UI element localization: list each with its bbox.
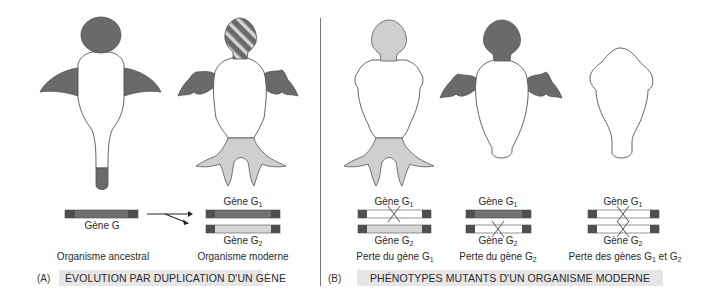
mutant-3-gene-g1-bar-lost: [588, 206, 659, 222]
panel-a-tag: (A): [37, 273, 50, 284]
mutant-1-organism: [344, 20, 434, 186]
mutant-2-label: Perte des gènes GPerte du gène G2: [453, 251, 543, 263]
gene-g-label: Gène G: [72, 220, 132, 231]
mutant-1-gene-g2-label: Gène G2: [362, 235, 426, 247]
mutant-1-gene-g2-bar: [358, 225, 431, 233]
ancestral-tail: [96, 168, 108, 190]
mutant-3-body: [590, 48, 653, 158]
mutant-2-head: [483, 20, 520, 61]
modern-body: [213, 58, 266, 138]
ancestral-organism: [40, 17, 161, 190]
modern-left-limb: [178, 72, 216, 97]
mutant-2-gene-g1-bar: [466, 210, 531, 218]
gene-g2-bar-modern: [206, 225, 280, 233]
panel-b-tag: (B): [328, 273, 341, 284]
mutant-3-gene-g1-label: Gène G1: [591, 196, 655, 208]
modern-gene-g1-label: Gène G1: [211, 196, 275, 208]
mutant-2-gene-g2-label: Gène G2: [466, 235, 530, 247]
gene-g1-bar-modern: [206, 210, 280, 218]
modern-right-limb: [262, 70, 298, 96]
mutant-3-label: Perte des gènes G1 et G2: [568, 251, 682, 263]
mutant-1-gene-g1-label: Gène G1: [362, 196, 426, 208]
ancestral-head: [81, 17, 121, 53]
ancestral-left-fin: [40, 68, 78, 96]
modern-head-striped: [225, 18, 257, 59]
modern-organism-label: Organisme moderne: [190, 251, 296, 262]
mutant-3-organism: [590, 48, 653, 158]
mutant-2-body: [476, 60, 529, 158]
modern-hind-limbs: [196, 138, 286, 186]
mutant-2-organism: [440, 20, 562, 158]
mutant-2-gene-g1-label: Gène G1: [466, 196, 530, 208]
mutant-1-label: Perte du gène G1: [350, 251, 440, 263]
mutant-1-body: [355, 60, 423, 138]
modern-organism: [178, 18, 298, 186]
ancestral-body: [78, 52, 124, 168]
mutant-1-head: [371, 20, 406, 61]
mutant-1-hind-limbs: [344, 138, 434, 186]
panel-b-caption: PHÉNOTYPES MUTANTS D'UN ORGANISME MODERN…: [357, 270, 663, 286]
mutant-1-gene-g1-bar-lost: [358, 206, 431, 222]
ancestral-organism-label: Organisme ancestral: [48, 251, 158, 262]
gene-g-bar: [65, 210, 138, 218]
panel-divider: [320, 18, 321, 286]
panel-a-caption: ÉVOLUTION PAR DUPLICATION D'UN GÈNE: [59, 270, 263, 286]
mutant-3-gene-g2-label: Gène G2: [591, 235, 655, 247]
duplication-arrow: [147, 211, 193, 225]
modern-gene-g2-label: Gène G2: [211, 235, 275, 247]
mutant-2-left-limb: [440, 74, 478, 98]
ancestral-right-fin: [124, 68, 161, 96]
mutant-2-right-limb: [524, 72, 562, 98]
